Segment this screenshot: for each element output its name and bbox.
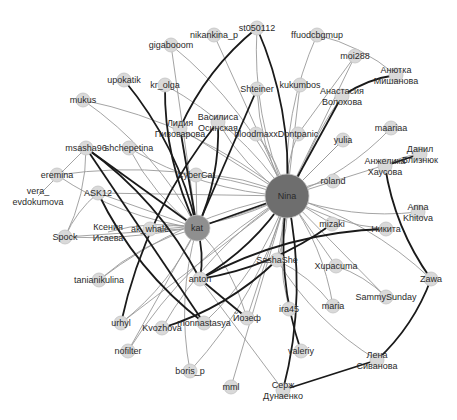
node-label-Spock: Spock	[52, 232, 78, 242]
node-label-valeriy: valeriy	[288, 346, 315, 356]
node-label-monnastasya: monnastasya	[177, 318, 231, 328]
node-label-Yozef: Йозеф	[233, 312, 261, 323]
node-label-Anotka-line1: Анютка	[381, 65, 412, 75]
node-label-Vasilisa-line1: Василиса	[198, 112, 238, 122]
node-label-Nina: Nina	[278, 191, 297, 201]
node-label-Daniil-line1: Данил	[407, 144, 433, 154]
node-label-mukus: mukus	[70, 95, 97, 105]
node-label-Kseniya-line2: Исаева	[93, 233, 124, 243]
edge-strong-kat-Shteiner	[197, 89, 257, 228]
node-label-tanianikulina: tanianikulina	[74, 275, 124, 285]
node-label-eremina: eremina	[41, 170, 74, 180]
node-label-urhyl: urhyl	[111, 318, 131, 328]
node-label-mizaki: mizaki	[319, 219, 345, 229]
node-label-vera-line1: vera_	[27, 186, 51, 196]
node-label-Lena-line2: Сиванова	[357, 361, 398, 371]
network-graph-canvas: Ninakatst050112nikankina_pgigabooomffuod…	[0, 0, 457, 420]
edge-layer-light	[38, 28, 431, 390]
node-label-SammySunday: SammySunday	[355, 292, 417, 302]
node-label-ak_whale: ak_whale	[131, 224, 169, 234]
node-label-Lena-line1: Лена	[367, 350, 388, 360]
node-label-st050112: st050112	[239, 23, 275, 33]
node-label-bloodmaxx: bloodmaxx	[234, 129, 278, 139]
node-label-Serzh-line2: Дунаенко	[263, 391, 303, 401]
node-label-shchepetina: shchepetina	[105, 143, 154, 153]
node-label-AnnaKhitova-line2: Khitova	[403, 213, 433, 223]
node-label-Zawa: Zawa	[420, 274, 442, 284]
node-label-nofilter: nofilter	[114, 346, 141, 356]
edge-kat-boris_p	[185, 228, 197, 371]
node-label-Kvozhova: Kvozhova	[142, 323, 182, 333]
label-layer: Ninakatst050112nikankina_pgigabooomffuod…	[12, 23, 442, 401]
node-label-Anzhelika-line2: Хаусова	[368, 167, 403, 177]
node-label-roland: roland	[320, 176, 345, 186]
network-graph: Ninakatst050112nikankina_pgigabooomffuod…	[0, 0, 457, 420]
node-label-Anastasia-line1: Анастасия	[320, 86, 364, 96]
node-label-Shteiner: Shteiner	[240, 84, 274, 94]
node-label-Serzh-line1: Серж	[272, 380, 295, 390]
node-label-CyberCat: CyberCat	[177, 170, 216, 180]
node-label-maria: maria	[322, 301, 345, 311]
node-label-kukumbos: kukumbos	[279, 80, 321, 90]
node-label-yulia: yulia	[334, 135, 353, 145]
node-label-maariaa: maariaa	[375, 123, 408, 133]
node-label-kat: kat	[191, 223, 204, 233]
node-label-Anotka-line2: Мишанова	[374, 76, 418, 86]
node-label-nikankina_p: nikankina_p	[190, 30, 238, 40]
edge-Nina-ffuodcbgmup	[287, 35, 317, 196]
node-label-ira45: ira45	[279, 304, 299, 314]
node-label-ASK12: ASK12	[84, 188, 112, 198]
node-label-Anastasia-line2: Волохова	[322, 97, 362, 107]
node-label-mml: mml	[223, 382, 240, 392]
node-label-SashaShe: SashaShe	[256, 255, 298, 265]
node-label-upokatik: upokatik	[107, 75, 141, 85]
node-label-boris_p: boris_p	[175, 366, 205, 376]
node-label-Kseniya-line1: Ксения	[93, 222, 123, 232]
edge-Nina-moi288	[287, 56, 355, 196]
node-label-ffuodcbgmup: ffuodcbgmup	[291, 30, 343, 40]
node-label-kr_olga: kr_olga	[150, 80, 180, 90]
node-label-Daniil-line2: Близнюк	[402, 155, 438, 165]
node-label-Xupacuma: Xupacuma	[314, 261, 357, 271]
edge-Serzh-anton	[200, 279, 283, 390]
node-label-Lidia-line2: Пивоварова	[155, 129, 206, 139]
node-label-AnnaKhitova-line1: Anna	[407, 202, 428, 212]
node-label-moi288: moi288	[340, 51, 370, 61]
node-label-Dontpanic: Dontpanic	[278, 129, 319, 139]
node-label-vera-line2: evdokumova	[12, 197, 63, 207]
node-label-Anzhelika-line1: Анжелика	[364, 156, 405, 166]
node-label-gigabooom: gigabooom	[149, 40, 194, 50]
node-label-anton: anton	[189, 274, 212, 284]
node-label-Nikita: Никита	[371, 224, 401, 234]
node-label-Lidia-line1: Лидия	[167, 118, 193, 128]
node-label-msasha96: msasha96	[65, 143, 107, 153]
edge-strong-msasha96-anton	[86, 148, 200, 279]
edge-msasha96-Spock	[65, 148, 86, 237]
